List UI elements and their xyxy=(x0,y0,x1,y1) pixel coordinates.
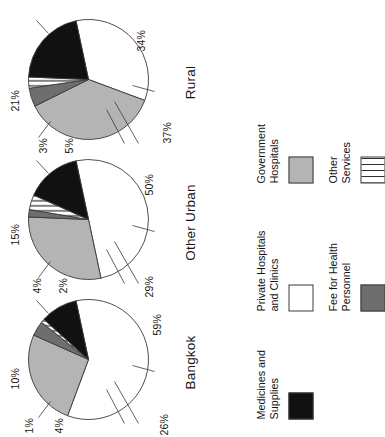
legend-swatch-medicines-icon xyxy=(288,392,313,419)
slice-label-bangkok-private: 59% xyxy=(150,314,162,335)
pie-chart-rural: Rural 34% 37% 5% 3% 21% xyxy=(14,1,214,151)
legend-label-private: Private Hospitalsand Clinics xyxy=(254,230,280,311)
pie-chart-other-urban: Other Urban 50% 29% 2% 4% 15% xyxy=(14,141,214,291)
leader-line xyxy=(36,20,48,33)
slice-label-bangkok-fee: 4% xyxy=(52,418,64,433)
legend-swatch-private-icon xyxy=(288,284,313,311)
slice-label-otherurban-other: 4% xyxy=(30,278,42,293)
pie-title-other-urban: Other Urban xyxy=(182,152,197,292)
pie-title-rural: Rural xyxy=(182,12,197,152)
leader-line xyxy=(36,160,48,173)
legend-swatch-government-icon xyxy=(288,156,313,183)
legend-swatch-fee-icon xyxy=(360,284,385,311)
slice-label-otherurban-private: 50% xyxy=(142,174,154,195)
slice-label-rural-other: 3% xyxy=(36,138,48,153)
legend-swatch-other-icon xyxy=(360,156,385,183)
slice-label-bangkok-medicines: 10% xyxy=(8,368,20,389)
slice-label-bangkok-government: 26% xyxy=(157,414,169,435)
legend-label-government: GovernmentHospitals xyxy=(254,124,280,183)
chart-legend: Medicines andSupplies Private Hospitalsa… xyxy=(236,15,336,419)
legend-label-fee: Fee for HealthPersonnel xyxy=(326,243,352,311)
slice-label-rural-government: 37% xyxy=(160,122,172,143)
legend-label-medicines: Medicines andSupplies xyxy=(254,349,280,419)
slice-label-rural-medicines: 21% xyxy=(8,90,20,111)
slice-label-bangkok-other: 1% xyxy=(22,418,34,433)
pie-bangkok-svg xyxy=(14,281,174,431)
pie-chart-bangkok: Bangkok 59% 26% 4% 1% 10% xyxy=(14,281,214,431)
leader-line xyxy=(36,300,48,313)
slice-label-otherurban-medicines: 15% xyxy=(8,224,20,245)
legend-label-other: OtherServices xyxy=(326,142,352,183)
pie-rural-svg xyxy=(14,1,174,151)
slice-label-rural-fee: 5% xyxy=(62,138,74,153)
slice-label-otherurban-fee: 2% xyxy=(56,278,68,293)
pie-title-bangkok: Bangkok xyxy=(182,292,197,432)
slice-label-otherurban-government: 29% xyxy=(142,276,154,297)
pie-slice xyxy=(28,216,100,279)
pie-other-urban-svg xyxy=(14,141,174,291)
slice-label-rural-private: 34% xyxy=(134,30,146,51)
